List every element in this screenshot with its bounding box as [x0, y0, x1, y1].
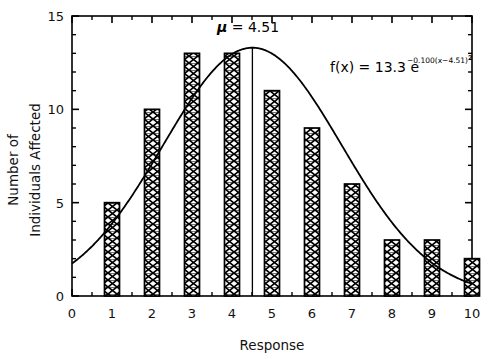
x-tick-label: 6 — [308, 306, 316, 321]
mean-annotation-text: μ = 4.51 — [216, 19, 279, 35]
x-tick-label: 2 — [148, 306, 156, 321]
bar-2 — [145, 109, 160, 296]
equation-text: f(x) = 13.3 e — [330, 59, 419, 75]
bar-10 — [465, 259, 480, 296]
bar-6 — [305, 128, 320, 296]
x-axis-title: Response — [240, 337, 305, 353]
y-axis-title-line1: Number of — [5, 133, 21, 206]
bar-fill — [305, 128, 320, 296]
mean-annotation: μ = 4.51 — [216, 19, 279, 35]
gaussian-histogram-chart: 051015012345678910 Response Number of In… — [0, 0, 491, 359]
y-tick-label: 5 — [56, 196, 64, 211]
x-tick-label: 5 — [268, 306, 276, 321]
y-tick-label: 10 — [47, 102, 64, 117]
x-tick-label: 7 — [348, 306, 356, 321]
bar-8 — [385, 240, 400, 296]
equation-equals: = — [359, 59, 371, 75]
y-tick-label: 15 — [47, 9, 64, 24]
equation-exponent: −0.100(x−4.51)2 — [407, 54, 473, 66]
bar-fill — [225, 53, 240, 296]
bar-fill — [425, 240, 440, 296]
bar-fill — [385, 240, 400, 296]
y-axis-title-line2: Individuals Affected — [27, 103, 43, 237]
bar-5 — [265, 91, 280, 296]
mean-value: 4.51 — [248, 19, 279, 35]
x-tick-label: 4 — [228, 306, 236, 321]
x-tick-label: 10 — [464, 306, 481, 321]
x-tick-label: 9 — [428, 306, 436, 321]
mean-equals-sign: = — [232, 19, 244, 35]
equation-fx: f(x) — [330, 59, 354, 75]
bar-fill — [465, 259, 480, 296]
x-tick-label: 0 — [68, 306, 76, 321]
bar-4 — [225, 53, 240, 296]
x-tick-label: 3 — [188, 306, 196, 321]
bar-fill — [345, 184, 360, 296]
chart-figure: 051015012345678910 Response Number of In… — [0, 0, 491, 359]
bar-fill — [265, 91, 280, 296]
y-tick-label: 0 — [56, 289, 64, 304]
x-tick-label: 1 — [108, 306, 116, 321]
bar-fill — [145, 109, 160, 296]
equation-amplitude: 13.3 — [375, 59, 406, 75]
x-tick-label: 8 — [388, 306, 396, 321]
bar-9 — [425, 240, 440, 296]
mu-symbol: μ — [216, 19, 227, 35]
bar-7 — [345, 184, 360, 296]
